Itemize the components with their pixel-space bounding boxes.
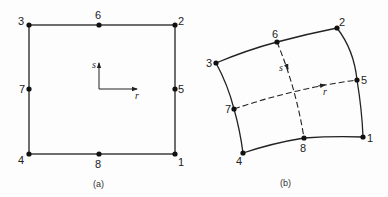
node-label-8: 8	[95, 158, 101, 170]
r-isoline-dashed	[234, 80, 357, 109]
node-label-7: 7	[225, 103, 231, 115]
s-axis-label-b: s	[279, 62, 283, 73]
node-1	[360, 134, 365, 139]
node-8	[96, 151, 101, 156]
node-6	[96, 22, 101, 27]
panel-b: s r 1 2 3 4 5 6 7 8 (b)	[206, 16, 373, 188]
node-label-4: 4	[18, 154, 24, 166]
caption-a: (a)	[93, 179, 104, 189]
local-axes-b: s r	[279, 62, 327, 97]
node-5	[354, 77, 359, 82]
local-axes: s r	[92, 59, 139, 101]
r-axis-label-b: r	[323, 86, 327, 97]
node-label-8: 8	[300, 142, 306, 154]
node-label-1: 1	[178, 156, 184, 168]
node-6	[274, 39, 279, 44]
node-4	[26, 151, 31, 156]
panel-a: s r 1 2 3 4 5 6 7 8 (a)	[18, 9, 184, 189]
caption-b: (b)	[280, 178, 291, 188]
node-5	[172, 86, 177, 91]
curved-element-boundary	[216, 28, 363, 153]
node-8	[301, 135, 306, 140]
node-2	[172, 22, 177, 27]
node-1	[172, 151, 177, 156]
node-label-1: 1	[367, 132, 373, 144]
node-label-4: 4	[236, 155, 242, 167]
node-label-3: 3	[206, 57, 212, 69]
node-3	[213, 60, 218, 65]
node-label-6: 6	[272, 28, 278, 40]
eight-node-element-figure: s r 1 2 3 4 5 6 7 8 (a)	[0, 0, 388, 197]
node-7	[231, 106, 236, 111]
node-label-5: 5	[361, 74, 367, 86]
node-7	[26, 86, 31, 91]
node-label-2: 2	[339, 16, 345, 28]
node-label-3: 3	[18, 15, 24, 27]
node-label-2: 2	[178, 15, 184, 27]
node-label-6: 6	[95, 9, 101, 21]
node-label-7: 7	[19, 83, 25, 95]
node-label-5: 5	[178, 83, 184, 95]
r-axis-label: r	[135, 90, 139, 101]
s-axis-label: s	[92, 59, 96, 70]
node-3	[26, 22, 31, 27]
